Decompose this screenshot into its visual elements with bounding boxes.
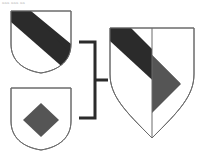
shield-right-combined[interactable]: [110, 28, 200, 138]
coat-of-arms-illustration: [0, 0, 205, 159]
bracket-outline: [79, 42, 95, 118]
heraldry-diagram-canvas: aaa aaa aa: [0, 0, 205, 159]
shield-bottom-left[interactable]: [11, 88, 71, 150]
shield-top-left[interactable]: [11, 11, 75, 78]
marshalling-bracket: [79, 42, 108, 118]
